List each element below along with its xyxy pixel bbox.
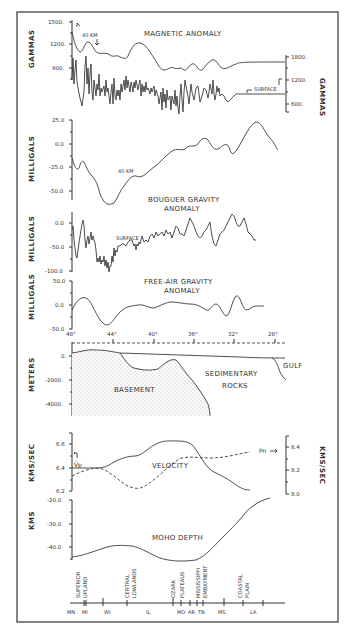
lat-48: 48°: [66, 331, 76, 337]
lat-28: 28°: [268, 331, 278, 337]
state-ar: AR: [188, 609, 195, 615]
geophysical-profile-figure: GAMMAS 1500. 1200. 900. MAGNETIC ANOMALY…: [0, 0, 348, 636]
moho-depth-curve: [72, 498, 270, 561]
lat-44: 44°: [107, 331, 117, 337]
mag-surface-arrow: [247, 90, 252, 93]
moho-tick-neg20: -20.0: [47, 497, 62, 503]
province-coastal-2: PLAIN: [244, 583, 250, 598]
vel-right-tick-8.2: 8.2: [291, 467, 300, 473]
moho-ylabel: KMS: [28, 511, 36, 530]
free-air-panel: MILLIGALS 50.0 0.0 -50.0 FREE-AIR GRAVIT…: [28, 274, 264, 332]
meters-tick-neg4000: -4000.: [45, 401, 63, 407]
sedimentary-label-2: ROCKS: [222, 382, 248, 390]
province-central-2: LOWLANDS: [131, 568, 137, 598]
cross-section-panel: METERS 0. -2000. -4000. BASEMENT SEDIMEN…: [28, 342, 303, 416]
bouguer-surface-curve: [72, 214, 256, 272]
province-mississippi-1: MISSISSIPPI: [195, 568, 201, 598]
vel-right-tick-8.0: 8.0: [291, 491, 300, 497]
velocity-ylabel-right: KMS/SEC: [318, 446, 326, 484]
state-il: IL: [146, 609, 150, 615]
mag-right-tick-1800: 1800.: [291, 54, 307, 60]
pn-label: Pn: [259, 447, 267, 454]
boug-tick-neg50: -50.0: [49, 188, 64, 194]
provinces-axis: SUPERIOR UPLAND CENTRAL LOWLANDS OZARK P…: [67, 565, 285, 615]
province-central-1: CENTRAL: [124, 574, 130, 598]
basement-label: BASEMENT: [114, 386, 155, 394]
free-air-title-line2: ANOMALY: [164, 287, 200, 295]
moho-tick-neg40: -40.0: [47, 544, 62, 550]
magnetic-title: MAGNETIC ANOMALY: [144, 30, 222, 38]
moho-title: MOHO DEPTH: [152, 534, 203, 542]
boug-tick-25: 25.0: [52, 117, 65, 123]
state-mn: MN: [67, 609, 75, 615]
bouguer-surface-panel: MILLIGALS 0.0 -50.0 -100.0 SURFACE: [28, 212, 256, 274]
mag-surface-curve: [72, 56, 285, 114]
boug-tick-neg25: -25.0: [49, 164, 64, 170]
province-ozark-1: OZARK: [170, 579, 176, 598]
magnetic-ylabel-right: GAMMAS: [318, 78, 326, 117]
meters-tick-neg2000: -2000.: [45, 377, 63, 383]
fa-tick-0: 0.0: [55, 302, 64, 308]
mag-40km-arrow: [77, 23, 80, 27]
vel-right-tick-8.4: 8.4: [291, 444, 300, 450]
bouguer-40km-curve: [72, 122, 278, 204]
bouguer-top-ylabel: MILLIGALS: [28, 136, 36, 182]
mag-tick-900: 900.: [52, 65, 64, 71]
meters-tick-0: 0.: [61, 353, 66, 359]
mag-right-axis-arrow: [279, 79, 282, 85]
velocity-panel: KMS/SEC 6.6 6.4 6.2 VELOCITY V̄p Pn 8.4 …: [28, 433, 326, 497]
free-air-ylabel: MILLIGALS: [28, 274, 36, 320]
mag-right-tick-600: 600.: [291, 101, 303, 107]
gulf-label: GULF: [283, 362, 303, 370]
boug-40km-label: 40 KM: [118, 168, 134, 174]
bouguer-title-line2: ANOMALY: [164, 205, 200, 213]
fa-tick-neg50: -50.0: [50, 326, 65, 332]
state-mo: MO: [177, 609, 185, 615]
vel-tick-6.6: 6.6: [56, 441, 65, 447]
vel-tick-6.2: 6.2: [56, 488, 65, 494]
magnetic-ylabel-left: GAMMAS: [28, 29, 36, 68]
pn-arrow: [270, 449, 277, 453]
lat-40: 40°: [148, 331, 158, 337]
sedimentary-label-1: SEDIMENTARY: [205, 370, 258, 378]
free-air-title-line1: FREE-AIR GRAVITY: [144, 278, 213, 286]
lat-32: 32°: [228, 331, 238, 337]
moho-panel: KMS -20.0 -30.0 -40.0 MOHO DEPTH: [28, 497, 270, 561]
state-tn: TN: [197, 609, 205, 615]
magnetic-anomaly-panel: GAMMAS 1500. 1200. 900. MAGNETIC ANOMALY…: [28, 19, 326, 117]
free-air-curve: [72, 296, 264, 325]
mag-tick-1200: 1200.: [50, 41, 66, 47]
vel-tick-6.4: 6.4: [56, 465, 65, 471]
basement-area: [72, 350, 210, 416]
bouguer-title-line1: BOUGUER GRAVITY: [148, 196, 220, 204]
velocity-title: VELOCITY: [152, 462, 189, 470]
province-superior-1: SUPERIOR: [75, 571, 81, 598]
boug-surface-label: SURFACE: [116, 235, 139, 241]
cross-section-ylabel: METERS: [28, 357, 36, 392]
province-mississippi-2: EMBAYMENT: [202, 565, 208, 598]
state-la: LA: [250, 609, 257, 615]
mag-40km-pointer: [95, 39, 99, 45]
bouguer-40km-panel: MILLIGALS 25.0 0.0 -25.0 -50.0 40 KM BOU…: [28, 117, 278, 213]
fa-tick-50: 50.0: [53, 278, 66, 284]
province-ozark-2: PLATEAUS: [179, 572, 185, 598]
lat-36: 36°: [188, 331, 198, 337]
boug-tick-0: 0.0: [55, 141, 64, 147]
moho-tick-neg30: -30.0: [47, 521, 62, 527]
state-ms: MS: [218, 609, 226, 615]
vp-label: V̄p: [74, 461, 82, 469]
velocity-ylabel-left: KMS/SEC: [28, 444, 36, 482]
latitude-axis: 48° 44° 40° 36° 32° 28°: [66, 331, 285, 343]
vp-arrow: [74, 452, 77, 458]
pn-velocity-curve: [72, 452, 250, 488]
mag-tick-1500: 1500.: [48, 19, 64, 25]
province-superior-2: UPLAND: [82, 577, 88, 598]
state-wi: WI: [104, 609, 110, 615]
boug-surf-tick-0: 0.0: [55, 220, 64, 226]
boug-surf-tick-neg100: -100.0: [45, 268, 63, 274]
mag-right-tick-1200: 1200.: [291, 77, 307, 83]
boug-surf-tick-neg50: -50.0: [50, 244, 65, 250]
mag-40km-label: 40 KM: [82, 32, 98, 38]
state-mi: MI: [82, 609, 88, 615]
province-coastal-1: COASTAL: [237, 574, 243, 598]
